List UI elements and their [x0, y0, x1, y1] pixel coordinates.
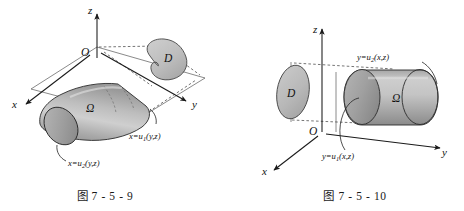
axis-z-right: z — [312, 23, 322, 132]
region-label-D: D — [163, 52, 173, 64]
surface-label-u2-left: x=u2(y,z) — [57, 145, 100, 169]
surface-args-u2: (x,z) — [374, 52, 389, 62]
figure-panel-left: z x y O D — [0, 0, 232, 211]
diagram-left: z x y O D — [0, 0, 232, 211]
region-label-D: D — [286, 87, 296, 99]
solid-omega-left: Ω — [37, 83, 149, 151]
svg-text:y=u1(x,z): y=u1(x,z) — [321, 151, 354, 162]
axis-label-z: z — [312, 23, 318, 35]
projection-region-D-left: D — [147, 39, 187, 80]
surface-args-u2: (y,z) — [85, 158, 100, 168]
projection-region-D-right: D — [273, 63, 313, 121]
axis-x-right: x — [261, 136, 318, 177]
origin-label-right: O — [309, 125, 318, 137]
figure-sheet: z x y O D — [0, 0, 464, 211]
axis-label-y: y — [191, 98, 197, 110]
axis-label-x: x — [261, 165, 267, 177]
svg-text:x=u1(y,z): x=u1(y,z) — [128, 131, 161, 142]
surface-args-u1: (x,z) — [339, 151, 354, 161]
surface-eq-u1: x=u — [128, 131, 143, 141]
surface-eq-u2: y=u — [356, 52, 371, 62]
surface-args-u1: (y,z) — [146, 131, 161, 141]
solid-label-omega: Ω — [86, 102, 94, 114]
svg-text:y=u2(x,z): y=u2(x,z) — [356, 52, 389, 63]
figure-caption-right: 图 7 - 5 - 10 — [232, 187, 464, 203]
surface-eq-u1: y=u — [321, 151, 336, 161]
origin-label-left: O — [81, 46, 90, 58]
svg-text:x=u2(y,z): x=u2(y,z) — [67, 158, 100, 169]
figure-panel-right: z x y O D — [232, 0, 464, 211]
figure-caption-left: 图 7 - 5 - 9 — [0, 187, 232, 203]
surface-eq-u2: x=u — [67, 158, 82, 168]
axis-label-y: y — [441, 146, 447, 158]
axis-label-x: x — [11, 98, 17, 110]
axis-label-z: z — [87, 4, 93, 16]
solid-omega-right: Ω — [344, 70, 438, 126]
diagram-right: z x y O D — [232, 0, 464, 211]
solid-label-omega: Ω — [392, 92, 400, 104]
